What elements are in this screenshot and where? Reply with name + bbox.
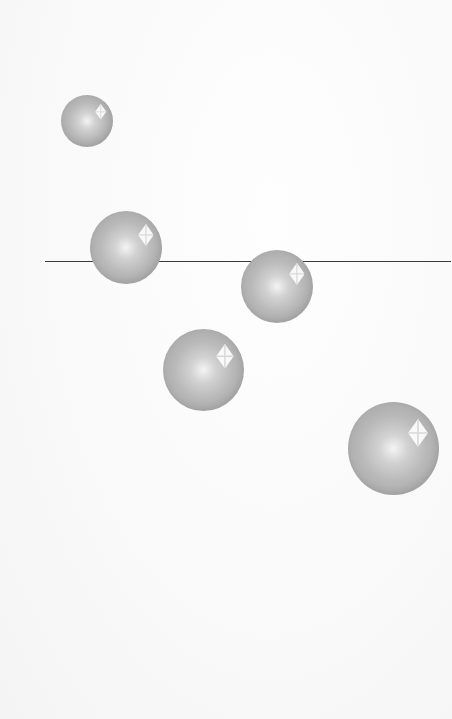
scene-canvas: ​ ​ ​ ​ bbox=[0, 0, 452, 719]
sphere-large-center bbox=[163, 329, 244, 411]
sphere-largest bbox=[348, 402, 439, 495]
window-reflection-icon bbox=[408, 419, 428, 447]
sphere-medium-left bbox=[90, 211, 162, 284]
window-reflection-icon bbox=[95, 104, 106, 120]
window-reflection-icon bbox=[289, 263, 305, 285]
window-reflection-icon bbox=[216, 344, 234, 369]
window-reflection-icon bbox=[138, 224, 154, 246]
sphere-small bbox=[61, 95, 113, 147]
sphere-medium-right bbox=[241, 250, 313, 323]
